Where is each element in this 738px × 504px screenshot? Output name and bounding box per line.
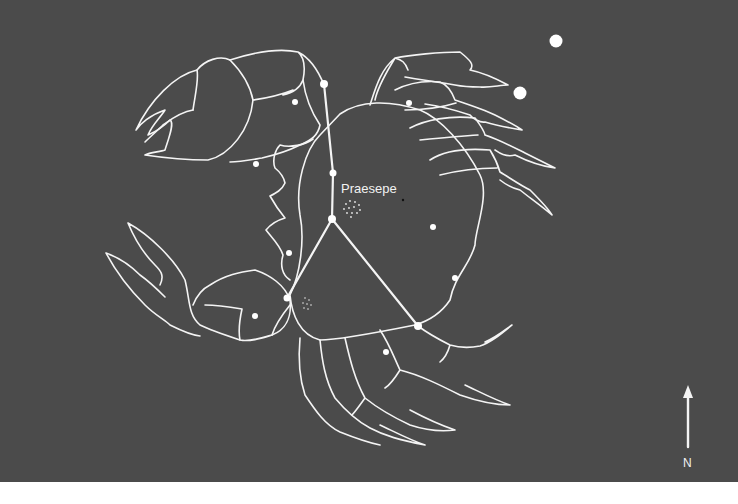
star-0 [320,80,328,88]
crab-illustration [0,0,738,482]
praesepe-cluster [343,200,361,218]
star-chart-panel: Praesepe N [0,0,738,482]
star-5 [328,215,336,223]
star-13 [550,35,563,48]
praesepe-label: Praesepe [341,181,397,196]
star-1 [292,99,298,105]
upper-right-legs [370,52,508,105]
upper-left-claw [136,58,253,160]
constellation-lines [287,84,418,326]
star-3 [253,161,259,167]
star-9 [284,295,291,302]
north-arrow-head [683,385,693,398]
star-8 [452,275,458,281]
lower-left-claw [106,223,290,341]
star-12 [383,349,389,355]
secondary-cluster [302,297,312,310]
star-10 [252,313,258,319]
north-label: N [683,456,692,470]
star-7 [286,250,292,256]
star-4 [330,170,337,177]
lower-right-legs [418,325,512,362]
carapace-outline [290,103,483,340]
star-2 [406,100,412,106]
star-11 [414,322,422,330]
star-14 [514,87,527,100]
star-6 [430,224,436,230]
